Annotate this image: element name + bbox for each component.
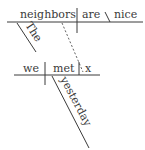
sentence-diagram: neighbors are nice The we met x yesterda… [0, 0, 145, 150]
relative-adverb: yesterday [57, 73, 95, 129]
relative-object: x [85, 62, 92, 75]
relative-verb: met [53, 62, 75, 75]
relative-subject: we [23, 62, 39, 75]
main-verb: are [82, 8, 100, 21]
main-subject: neighbors [20, 8, 76, 21]
predicate-adjective: nice [114, 8, 137, 21]
predicate-divider [105, 12, 110, 22]
subject-modifier: The [22, 20, 44, 45]
